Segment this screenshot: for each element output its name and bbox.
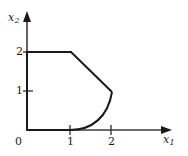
origin-label: 0 [15, 136, 22, 147]
edge-diagonal [71, 52, 112, 92]
figure-canvas: x2 x1 2 1 0 1 2 [0, 0, 188, 156]
y-axis-label: x2 [8, 12, 20, 25]
plot-svg [0, 0, 188, 156]
x-tick-label-1: 1 [67, 136, 74, 147]
y-axis-arrow-icon [23, 11, 31, 22]
axis-ticks [23, 52, 111, 135]
y-tick-label-2: 2 [16, 46, 23, 57]
x-axis-label: x1 [163, 134, 175, 147]
feasible-region-boundary [26, 52, 112, 130]
x-tick-label-2: 2 [108, 136, 115, 147]
edge-concave-arc [70, 92, 112, 130]
y-tick-label-1: 1 [16, 85, 23, 96]
